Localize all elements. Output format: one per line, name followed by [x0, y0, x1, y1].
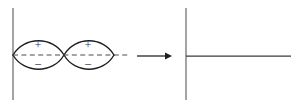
- left-panel-group: + – + –: [13, 8, 129, 100]
- right-lobe-plus-sign: +: [85, 39, 92, 51]
- orbital-diagram-figure: + – + –: [0, 0, 300, 106]
- right-panel-group: [186, 8, 291, 100]
- left-lobe-minus-sign: –: [34, 57, 41, 69]
- transformation-arrow: [137, 53, 172, 60]
- left-orbital-lobe: + –: [13, 39, 64, 70]
- diagram-canvas: + – + –: [0, 0, 300, 106]
- right-lobe-minus-sign: –: [84, 57, 91, 69]
- right-orbital-lobe: + –: [64, 39, 114, 70]
- left-lobe-plus-sign: +: [35, 39, 42, 51]
- arrow-head-icon: [165, 53, 172, 60]
